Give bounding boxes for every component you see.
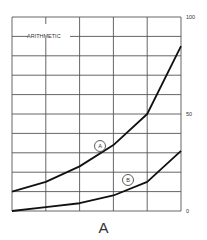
series-line-b xyxy=(12,151,181,211)
series-label: A xyxy=(98,143,102,149)
chart-title: ARITHMETIC xyxy=(27,33,61,39)
y-tick-label: 100 xyxy=(186,14,195,20)
line-chart: ARITHMETIC 050100 AB xyxy=(0,0,207,240)
y-tick-label: 0 xyxy=(186,208,189,214)
y-tick-label: 50 xyxy=(186,111,192,117)
series-line-a xyxy=(12,46,181,192)
data-lines: AB xyxy=(12,46,181,211)
y-axis-ticks: 050100 xyxy=(186,14,195,214)
grid xyxy=(12,17,181,211)
figure-caption: A xyxy=(0,219,207,236)
series-label: B xyxy=(126,177,130,183)
